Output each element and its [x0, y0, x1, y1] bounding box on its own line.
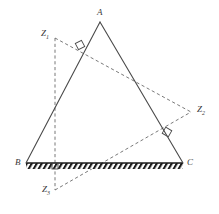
vertex-label-Z3-subscript: 3 — [47, 190, 50, 196]
vertex-label-C: C — [187, 158, 193, 169]
vertex-label-Z1: Z1 — [41, 29, 49, 40]
vertex-label-C-text: C — [187, 157, 193, 167]
right-angle-markers — [52, 40, 172, 169]
vertex-label-A: A — [97, 8, 103, 19]
vertex-label-Z3: Z3 — [42, 185, 50, 196]
right-angle-on-AB — [75, 40, 84, 49]
triangle-sides — [26, 22, 183, 163]
vertex-label-Z1-subscript: 1 — [46, 34, 49, 40]
vertex-label-B-text: B — [15, 157, 21, 167]
vertex-label-Z2-subscript: 2 — [202, 110, 205, 116]
vertex-label-Z2: Z2 — [197, 105, 205, 116]
ground-line-BC-hatch — [26, 163, 183, 169]
dashed-Z1-Z2 — [55, 38, 191, 112]
geometry-figure: A B C Z1 Z2 Z3 — [0, 0, 219, 214]
vertex-label-B: B — [15, 158, 21, 169]
figure-canvas — [0, 0, 219, 214]
side-AB — [26, 22, 100, 163]
dashed-Z3-Z2 — [55, 112, 191, 190]
vertex-label-A-text: A — [97, 7, 103, 17]
side-AC — [100, 22, 183, 163]
ground-hatched-band — [26, 163, 183, 169]
